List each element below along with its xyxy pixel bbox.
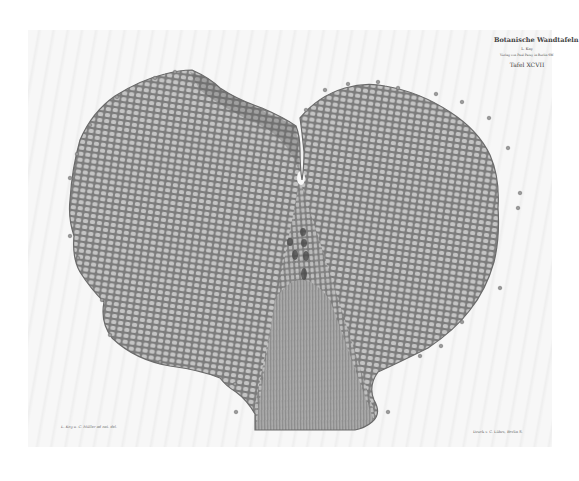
publisher-line: Verlag von Paul Parey in Berlin SW.	[494, 53, 560, 57]
plate-number: Tafel XCVII	[494, 61, 560, 68]
printer-credit: Druck v. C. Lührs, Berlin S.	[473, 430, 523, 434]
thallus-illustration	[0, 0, 579, 481]
series-title: Botanische Wandtafeln	[494, 36, 560, 44]
plate-title-block: Botanische Wandtafeln L. Kny Verlag von …	[494, 36, 560, 68]
volume-label: L. Kny	[494, 47, 560, 51]
artist-credit: L. Kny u. C. Müller ad nat. del.	[61, 425, 117, 429]
thallus-body	[60, 60, 510, 440]
